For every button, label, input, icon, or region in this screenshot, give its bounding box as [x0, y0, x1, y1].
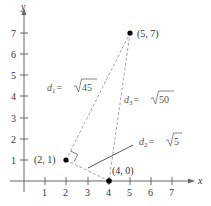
x-tick-4: 4: [106, 187, 111, 198]
y-tick-7: 7: [11, 28, 16, 39]
distance-label-d2: d2= 5: [139, 133, 182, 149]
y-tick-5: 5: [11, 70, 16, 81]
x-tick-6: 6: [148, 187, 153, 198]
svg-text:d2=: d2=: [139, 136, 155, 149]
distance-label-d3: d3= 50: [124, 91, 174, 107]
svg-text:d3=: d3=: [124, 94, 140, 107]
x-axis-label: x: [197, 175, 203, 186]
y-tick-2: 2: [11, 134, 16, 145]
svg-text:d1=: d1=: [47, 82, 63, 95]
x-tick-3: 3: [85, 187, 90, 198]
y-axis: y 1 2 3 4 5 6 7: [11, 1, 28, 192]
point-5-7: [127, 30, 132, 35]
y-tick-6: 6: [11, 49, 16, 60]
svg-text:5: 5: [174, 136, 179, 147]
x-tick-1: 1: [42, 187, 47, 198]
side-d3: [109, 33, 130, 181]
x-tick-2: 2: [63, 187, 68, 198]
point-label-4-0: (4, 0): [112, 165, 134, 177]
svg-text:45: 45: [82, 82, 92, 93]
side-d1: [66, 33, 130, 160]
x-tick-7: 7: [169, 187, 174, 198]
distance-label-d1: d1= 45: [47, 79, 97, 95]
y-tick-1: 1: [11, 155, 16, 166]
x-tick-5: 5: [127, 187, 132, 198]
point-label-2-1: (2, 1): [34, 154, 56, 166]
point-label-5-7: (5, 7): [137, 28, 159, 40]
y-tick-4: 4: [11, 91, 16, 102]
y-tick-3: 3: [11, 113, 16, 124]
x-axis: x 1 2 3 4 5 6 7: [10, 175, 203, 198]
y-axis-label: y: [20, 1, 26, 12]
distance-diagram: y 1 2 3 4 5 6 7 x 1 2 3 4 5 6 7: [0, 0, 211, 206]
points: (2, 1) (5, 7) (4, 0): [34, 28, 159, 184]
svg-text:50: 50: [159, 94, 169, 105]
point-4-0: [106, 178, 112, 184]
point-2-1: [63, 157, 68, 162]
right-angle-marker: [71, 151, 78, 162]
